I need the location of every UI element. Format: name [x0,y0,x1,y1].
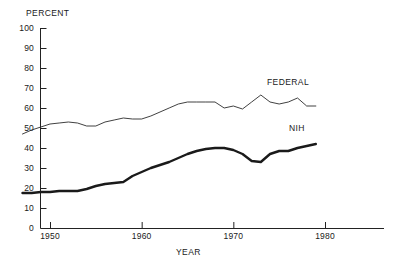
x-axis-title: YEAR [176,247,201,257]
series-label-nih: NIH [289,123,305,133]
chart-container: PERCENT 0102030405060708090100 195019601… [0,0,393,268]
series-label-federal: FEDERAL [267,77,309,87]
axes [41,28,385,229]
data-series-group [23,95,316,193]
x-axis-tick-marks [51,222,326,228]
series-line-federal [23,95,316,134]
plot-area [0,0,393,268]
series-line-nih [23,144,316,193]
y-axis-tick-marks [41,29,47,229]
